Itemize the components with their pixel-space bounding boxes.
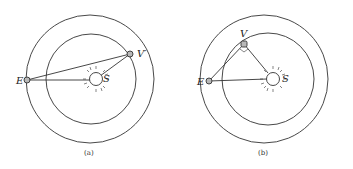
earth-marker (206, 78, 212, 84)
earth-marker (24, 77, 30, 83)
figure-a (24, 15, 154, 143)
label-venus-a: V′ (137, 48, 147, 59)
figure-b (200, 15, 328, 143)
orbit-diagrams: E V′ S (a) (0, 0, 353, 169)
line-venus-sun (244, 44, 268, 73)
line-earth-venus (209, 44, 244, 81)
label-sun-a: S (103, 73, 110, 84)
label-earth-a: E (15, 75, 24, 86)
line-earth-venus (27, 54, 130, 80)
caption-b: (b) (258, 149, 268, 157)
line-earth-sun (209, 79, 267, 81)
caption-a: (a) (84, 149, 94, 157)
venus-marker (127, 51, 133, 57)
right-angle-marker (240, 49, 248, 52)
label-earth-b: E (196, 76, 205, 87)
venus-marker (241, 41, 247, 47)
label-sun-b: S (282, 73, 289, 84)
